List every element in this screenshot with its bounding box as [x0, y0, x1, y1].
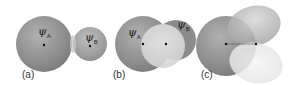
psi-symbol: ψ: [85, 31, 94, 44]
psi-subscript: A: [47, 33, 51, 39]
psi-symbol: ψ: [177, 18, 186, 31]
panel-b-caption: (b): [113, 69, 125, 80]
psi-a-label: ψA: [128, 27, 141, 40]
nucleus-a: [142, 43, 144, 45]
nucleus-b: [165, 43, 167, 45]
nucleus-a: [43, 44, 45, 46]
psi-subscript: A: [137, 34, 141, 40]
psi-symbol: ψ: [38, 25, 47, 38]
psi-a-label: ψA: [38, 26, 51, 39]
nucleus-b: [255, 43, 257, 45]
psi-subscript: B: [186, 26, 190, 32]
psi-b-label: ψB: [85, 32, 98, 45]
psi-symbol: ψ: [128, 26, 137, 39]
overlap-region: [70, 35, 76, 53]
psi-subscript: B: [94, 39, 98, 45]
panel-c-caption: (c): [201, 69, 213, 80]
psi-b-label: ψB: [177, 19, 190, 32]
panel-a-caption: (a): [22, 69, 34, 80]
nucleus-a: [225, 43, 227, 45]
orbital-overlap-diagram: [0, 0, 298, 85]
